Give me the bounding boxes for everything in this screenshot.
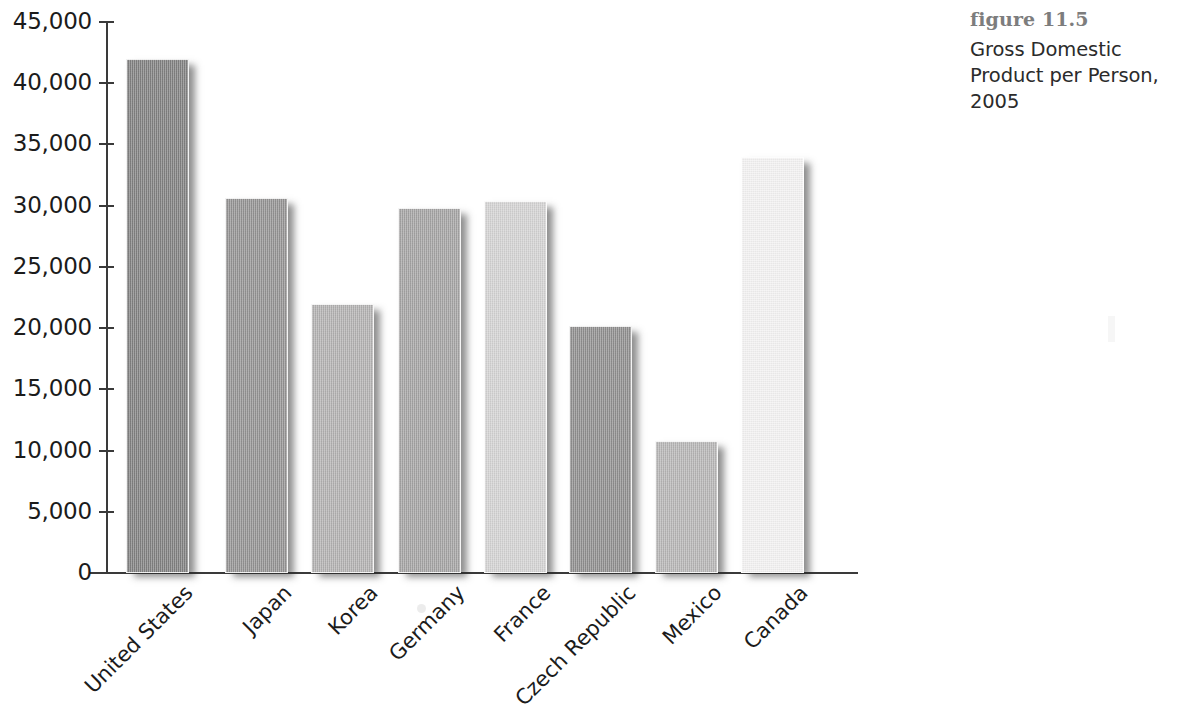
scan-artifact-right <box>1108 316 1115 342</box>
bar[interactable] <box>741 157 804 573</box>
bar-group[interactable] <box>225 198 288 573</box>
bar[interactable] <box>569 326 632 573</box>
bar[interactable] <box>126 59 189 573</box>
bar[interactable] <box>655 441 718 573</box>
figure-description-text: Gross Domestic Product per Person, 2005 <box>970 37 1170 115</box>
bar-group[interactable] <box>741 157 804 573</box>
bar-group[interactable] <box>484 201 547 573</box>
bar-group[interactable] <box>126 59 189 573</box>
bar-group[interactable] <box>569 326 632 573</box>
bar-group[interactable] <box>655 441 718 573</box>
figure-caption: figure 11.5 Gross Domestic Product per P… <box>970 8 1170 115</box>
bar-group[interactable] <box>311 304 374 573</box>
bar[interactable] <box>484 201 547 573</box>
chart-plot-area: 45,00040,00035,00030,00025,00020,00015,0… <box>0 0 880 701</box>
bar[interactable] <box>311 304 374 573</box>
bar-group[interactable] <box>398 208 461 573</box>
bar[interactable] <box>398 208 461 573</box>
bar[interactable] <box>225 198 288 573</box>
figure-number-label: figure 11.5 <box>970 8 1170 31</box>
